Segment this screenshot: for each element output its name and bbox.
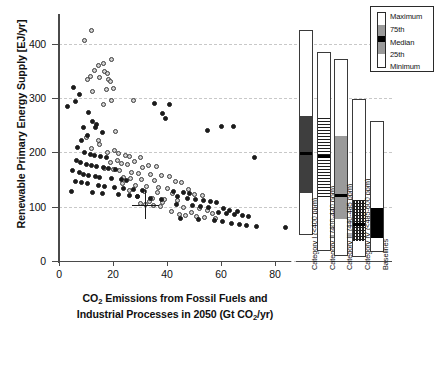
scatter-point [220, 219, 225, 224]
scatter-point [185, 196, 190, 201]
scatter-point [210, 211, 215, 216]
scatter-point [240, 213, 245, 218]
boxplot-median-line [300, 152, 312, 155]
scatter-point [82, 38, 87, 43]
legend-swatch-p75 [378, 25, 385, 36]
boxplot-median-line [318, 155, 330, 158]
scatter-point [193, 197, 198, 202]
scatter-point [131, 98, 136, 103]
scatter-point [100, 191, 105, 196]
scatter-point [229, 221, 234, 226]
scatter-point [90, 89, 95, 94]
scatter-point [119, 177, 124, 182]
y-axis-line [58, 14, 60, 263]
scatter-point [121, 186, 126, 191]
scatter-point [144, 184, 149, 189]
scatter-point [231, 124, 236, 129]
scatter-point [82, 150, 87, 155]
y-tick-label-200: 200 [12, 146, 46, 158]
scatter-point [216, 210, 221, 215]
scatter-point [196, 217, 201, 222]
scatter-point [154, 164, 159, 169]
x-tick-mark-60 [221, 261, 222, 266]
scatter-point [75, 145, 80, 150]
gridline-400 [59, 44, 392, 45]
x-tick-label-20: 20 [98, 268, 128, 280]
scatter-point [81, 172, 86, 177]
scatter-point [86, 173, 91, 178]
scatter-point [79, 180, 84, 185]
y-tick-label-400: 400 [12, 38, 46, 50]
scatter-point [254, 224, 259, 229]
scatter-point [159, 197, 164, 202]
scatter-point [171, 189, 176, 194]
scatter-point [96, 183, 101, 188]
scatter-point [131, 187, 136, 192]
scatter-point [212, 218, 217, 223]
scatter-point [178, 216, 183, 221]
scatter-point [140, 165, 145, 170]
scatter-point [86, 110, 91, 115]
scatter-point [89, 163, 94, 168]
scatter-point [135, 194, 140, 199]
scatter-point [127, 193, 132, 198]
scatter-point [205, 128, 210, 133]
scatter-point [136, 171, 141, 176]
legend-swatch [377, 12, 386, 68]
scatter-point [139, 177, 144, 182]
scatter-point [102, 184, 107, 189]
scatter-point [159, 173, 164, 178]
x-axis-title-line2: Industrial Processes in 2050 (Gt CO2/yr) [77, 308, 273, 320]
scatter-point [77, 92, 82, 97]
scatter-point [70, 168, 75, 173]
scatter-point [71, 85, 76, 90]
x-tick-label-40: 40 [152, 268, 182, 280]
x-tick-label-0: 0 [44, 268, 74, 280]
legend-swatch-p25 [378, 42, 385, 54]
scatter-point [224, 211, 229, 216]
scatter-point [244, 223, 249, 228]
legend-label-25th: 25th [390, 50, 404, 59]
scatter-point [65, 104, 70, 109]
legend-label-maximum: Maximum [390, 12, 422, 21]
scatter-point [89, 28, 94, 33]
scatter-point [167, 102, 172, 107]
scatter-point [183, 213, 188, 218]
scatter-point [116, 151, 121, 156]
scatter-point [69, 189, 74, 194]
scatter-point [152, 178, 157, 183]
scatter-point [181, 190, 186, 195]
scatter-point [104, 87, 109, 92]
scatter-point [94, 164, 99, 169]
scatter-point [214, 200, 219, 205]
scatter-point [173, 179, 178, 184]
legend-label-75th: 75th [390, 25, 404, 34]
scatter-point [116, 192, 121, 197]
boxplot-iqr [371, 208, 383, 238]
scatter-point [119, 161, 124, 166]
scatter-point [97, 175, 102, 180]
scatter-point [129, 170, 134, 175]
scatter-point [100, 130, 105, 135]
chart-root: Renewable Primary Energy Supply [EJ/yr] … [0, 0, 436, 387]
legend-label-median: Median [390, 38, 414, 47]
scatter-point [109, 57, 114, 62]
x-axis-line [58, 261, 291, 262]
scatter-point [125, 162, 130, 167]
boxplot-category-label: Baselines [381, 239, 390, 270]
scatter-point [81, 125, 86, 130]
scatter-point [219, 124, 224, 129]
scatter-point [97, 75, 102, 80]
scatter-point [252, 155, 257, 160]
scatter-point [93, 125, 98, 130]
x-axis-title: CO2 Emissions from Fossil Fuels and Indu… [30, 292, 320, 324]
scatter-point [174, 202, 179, 207]
scatter-point [113, 129, 118, 134]
scatter-point [92, 68, 97, 73]
scatter-point [79, 138, 84, 143]
scatter-point [167, 174, 172, 179]
x-tick-mark-0 [59, 261, 60, 266]
scatter-point [132, 159, 137, 164]
scatter-point [111, 86, 116, 91]
scatter-point [85, 181, 90, 186]
